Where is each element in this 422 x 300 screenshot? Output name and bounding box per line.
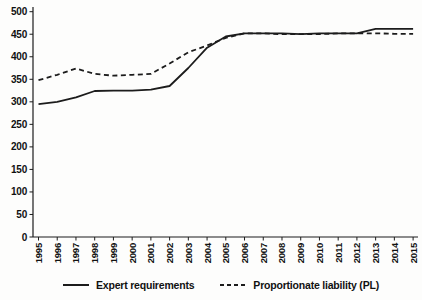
legend-item-proportionate-liability: Proportionate liability (PL) xyxy=(220,279,379,291)
series-line-expert-requirements xyxy=(39,29,414,104)
x-tick-label: 2009 xyxy=(295,243,306,263)
x-tick-label: 1999 xyxy=(108,243,119,263)
y-tick-label: 0 xyxy=(22,232,28,243)
solid-line-sample-icon xyxy=(63,284,89,286)
chart-legend: Expert requirements Proportionate liabil… xyxy=(0,274,422,296)
legend-label-expert-requirements: Expert requirements xyxy=(96,279,194,291)
y-tick-label: 50 xyxy=(16,209,27,220)
x-tick-label: 2003 xyxy=(183,243,194,263)
y-tick-label: 250 xyxy=(11,119,28,130)
series-line-proportionate-liability-pl xyxy=(39,33,414,80)
legend-item-expert-requirements: Expert requirements xyxy=(63,279,194,291)
y-tick-label: 400 xyxy=(11,51,28,62)
x-tick-label: 1997 xyxy=(70,243,81,263)
y-tick-label: 450 xyxy=(11,29,28,40)
x-tick-label: 2008 xyxy=(276,243,287,263)
y-tick-label: 150 xyxy=(11,164,28,175)
x-tick-label: 2006 xyxy=(239,243,250,263)
line-chart: 0501001502002503003504004505001995199619… xyxy=(0,0,422,300)
y-tick-label: 300 xyxy=(11,96,28,107)
x-tick-label: 2005 xyxy=(220,242,231,263)
x-tick-label: 2010 xyxy=(314,243,325,263)
x-tick-label: 1996 xyxy=(52,243,63,263)
x-tick-label: 2015 xyxy=(408,242,419,263)
x-tick-label: 2011 xyxy=(333,242,344,263)
x-tick-label: 2004 xyxy=(202,242,213,263)
y-tick-label: 350 xyxy=(11,74,28,85)
chart-canvas: 0501001502002503003504004505001995199619… xyxy=(0,0,422,274)
y-tick-label: 100 xyxy=(11,186,28,197)
x-tick-label: 1998 xyxy=(89,243,100,263)
x-tick-label: 1995 xyxy=(33,242,44,263)
dashed-line-sample-icon xyxy=(220,284,246,286)
x-tick-label: 2012 xyxy=(351,243,362,263)
y-tick-label: 500 xyxy=(11,6,28,17)
x-tick-label: 2000 xyxy=(127,243,138,263)
x-tick-label: 2013 xyxy=(370,243,381,263)
x-tick-label: 2014 xyxy=(389,242,400,263)
legend-label-proportionate-liability: Proportionate liability (PL) xyxy=(253,279,379,291)
x-tick-label: 2002 xyxy=(164,243,175,263)
y-tick-label: 200 xyxy=(11,141,28,152)
x-tick-label: 2007 xyxy=(258,243,269,263)
x-tick-label: 2001 xyxy=(145,242,156,263)
